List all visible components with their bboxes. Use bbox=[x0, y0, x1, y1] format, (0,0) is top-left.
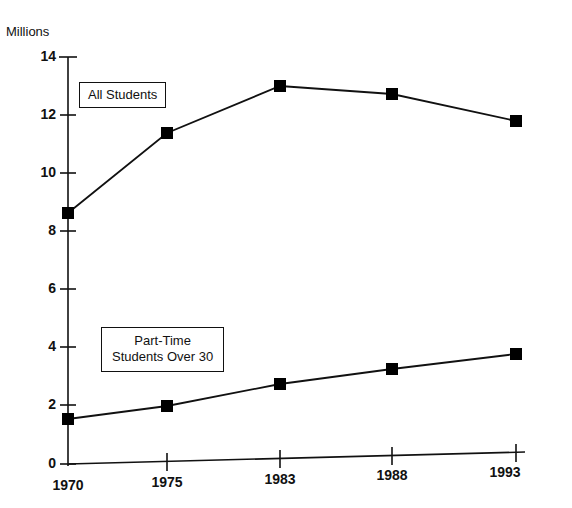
data-point-part-time-1970 bbox=[62, 413, 74, 425]
data-point-part-time-1983 bbox=[274, 378, 286, 390]
y-axis bbox=[59, 57, 77, 466]
data-point-all-students-1988 bbox=[386, 88, 398, 100]
data-point-all-students-1970 bbox=[62, 207, 74, 219]
x-axis-line bbox=[68, 452, 525, 464]
chart-page: Millions 14 12 10 8 6 4 2 0 1970 1975 19… bbox=[0, 0, 572, 508]
series-label-all-students: All Students bbox=[79, 82, 166, 108]
data-point-part-time-1975 bbox=[161, 400, 173, 412]
series-label-part-time-students-over-30: Part-Time Students Over 30 bbox=[101, 327, 224, 372]
data-point-part-time-1988 bbox=[386, 363, 398, 375]
data-point-all-students-1993 bbox=[510, 115, 522, 127]
x-axis bbox=[68, 444, 525, 471]
data-point-part-time-1993 bbox=[510, 348, 522, 360]
series-label-part-time-line2: Students Over 30 bbox=[112, 349, 213, 365]
series-label-part-time-line1: Part-Time bbox=[112, 333, 213, 349]
chart-plot-area bbox=[0, 0, 572, 508]
data-point-all-students-1983 bbox=[274, 80, 286, 92]
data-point-all-students-1975 bbox=[161, 127, 173, 139]
